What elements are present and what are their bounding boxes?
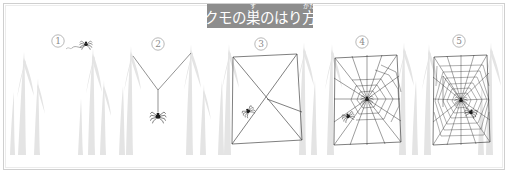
title-char: モ: [218, 11, 232, 26]
panel-2-number-label: 2: [155, 39, 161, 49]
title-furigana: す: [250, 3, 256, 9]
web-frame-lines: [232, 54, 302, 144]
panel-4-spider-second: [341, 111, 356, 123]
panel-4-illustration: 4: [334, 36, 401, 145]
floating-silk-thread: [72, 46, 84, 48]
title-banner: クモの巣すのはり方かた: [207, 4, 313, 28]
panel-2-illustration: 2: [133, 38, 191, 123]
title-furigana: かた: [303, 3, 315, 9]
panel-1-number: 1: [52, 35, 64, 47]
panel-3-number: 3: [255, 38, 267, 50]
panel-3-number-label: 3: [258, 39, 264, 49]
panel-1-spider: [80, 41, 92, 49]
background-plants: [10, 42, 501, 155]
bridge-thread: [133, 53, 191, 112]
panel-2-spider: [150, 112, 166, 123]
spider-web-diagram: 1 2 3: [0, 0, 508, 173]
title-char: 巣す: [246, 11, 260, 26]
title-char: の: [260, 11, 274, 26]
panel-3-spider: [241, 105, 256, 119]
panel-4-number: 4: [356, 36, 368, 48]
title-char: ク: [204, 11, 218, 26]
title-char: 方かた: [302, 11, 316, 26]
panel-2-number: 2: [152, 38, 164, 50]
title-char: の: [232, 11, 246, 26]
panel-5-number: 5: [453, 35, 465, 47]
panel-1-number-label: 1: [55, 36, 61, 46]
panel-1-illustration: 1: [52, 35, 92, 50]
silk-thread-tail: [66, 48, 72, 49]
panel-3-illustration: 3: [232, 38, 302, 144]
panel-4-number-label: 4: [359, 37, 365, 47]
title-char: は: [274, 11, 288, 26]
panel-5-number-label: 5: [456, 36, 462, 46]
title-char: り: [288, 11, 302, 26]
title-text: クモの巣すのはり方かた: [204, 11, 316, 28]
